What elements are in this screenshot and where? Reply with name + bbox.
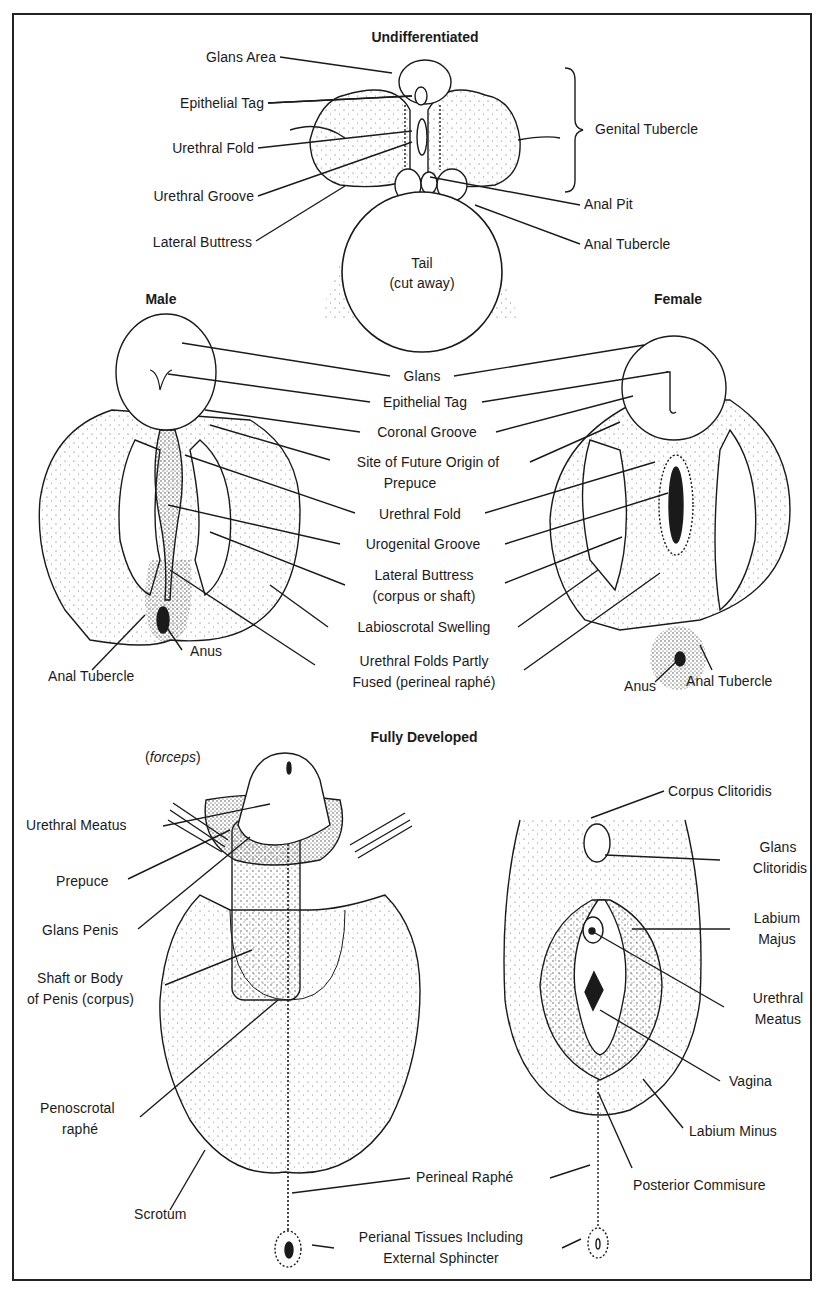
label-posterior-commisure: Posterior Commisure: [633, 1175, 766, 1195]
label-epithelial-tag: Epithelial Tag: [180, 93, 264, 113]
label-labium-majus-2: Majus: [758, 929, 796, 949]
label-urethral-meatus-female-2: Meatus: [755, 1009, 801, 1029]
label-prepuce-site-2: Prepuce: [384, 473, 437, 493]
label-external-sphincter: External Sphincter: [383, 1248, 499, 1268]
label-corpus-clitoridis: Corpus Clitoridis: [668, 781, 772, 801]
label-labium-majus: Labium: [754, 908, 800, 928]
label-lateral-buttress-2: Lateral Buttress: [374, 565, 473, 585]
anatomy-illustration: [0, 0, 824, 1293]
label-lateral-buttress-corpus: (corpus or shaft): [372, 586, 475, 606]
label-glans: Glans: [404, 366, 441, 386]
label-labioscrotal-swelling: Labioscrotal Swelling: [358, 617, 491, 637]
label-shaft-2: of Penis (corpus): [27, 989, 134, 1009]
label-perineal-raphe: Perineal Raphé: [416, 1167, 513, 1187]
label-coronal-groove: Coronal Groove: [377, 422, 477, 442]
label-anal-pit: Anal Pit: [584, 194, 633, 214]
label-scrotum: Scrotum: [134, 1204, 187, 1224]
title-undifferentiated: Undifferentiated: [372, 27, 479, 47]
label-male-anus: Anus: [190, 641, 222, 661]
label-prepuce: Prepuce: [56, 871, 109, 891]
label-anal-tubercle: Anal Tubercle: [584, 234, 670, 254]
label-urogenital-groove: Urogenital Groove: [366, 534, 481, 554]
undifferentiated-drawing: [256, 57, 583, 352]
label-urethral-fold: Urethral Fold: [172, 138, 254, 158]
label-glans-penis: Glans Penis: [42, 920, 118, 940]
label-female-anal-tubercle: Anal Tubercle: [686, 671, 772, 691]
label-shaft: Shaft or Body: [37, 968, 123, 988]
label-urethral-groove: Urethral Groove: [153, 186, 254, 206]
label-perianal-tissues: Perianal Tissues Including: [359, 1227, 523, 1247]
label-penoscrotal-raphe: raphé: [62, 1119, 98, 1139]
label-urethral-folds-partly: Urethral Folds Partly: [359, 651, 488, 671]
label-epithelial-tag-2: Epithelial Tag: [383, 392, 467, 412]
label-glans-clitoridis-2: Clitoridis: [753, 858, 807, 878]
label-forceps: (forceps): [145, 747, 201, 767]
label-lateral-buttress: Lateral Buttress: [153, 232, 252, 252]
male-intermediate-drawing: [39, 314, 300, 645]
label-urethral-fold-2: Urethral Fold: [379, 504, 461, 524]
label-tail-cut-away: (cut away): [389, 273, 454, 293]
label-labium-minus: Labium Minus: [689, 1121, 777, 1141]
label-vagina: Vagina: [729, 1071, 772, 1091]
label-glans-area: Glans Area: [206, 47, 276, 67]
label-genital-tubercle: Genital Tubercle: [595, 119, 698, 139]
label-tail: Tail: [411, 253, 432, 273]
title-male: Male: [145, 289, 176, 309]
label-urethral-meatus-male: Urethral Meatus: [26, 815, 127, 835]
title-female: Female: [654, 289, 702, 309]
label-male-anal-tubercle: Anal Tubercle: [48, 666, 134, 686]
female-intermediate-drawing: [550, 336, 790, 690]
label-penoscrotal: Penoscrotal: [40, 1098, 115, 1118]
label-glans-clitoridis: Glans: [760, 837, 797, 857]
label-urethral-folds-fused: Fused (perineal raphé): [352, 672, 495, 692]
label-female-anus: Anus: [624, 676, 656, 696]
label-prepuce-site: Site of Future Origin of: [357, 452, 500, 472]
label-urethral-meatus-female: Urethral: [753, 988, 803, 1008]
title-fully-developed: Fully Developed: [371, 727, 478, 747]
male-developed-drawing: [160, 753, 420, 1267]
